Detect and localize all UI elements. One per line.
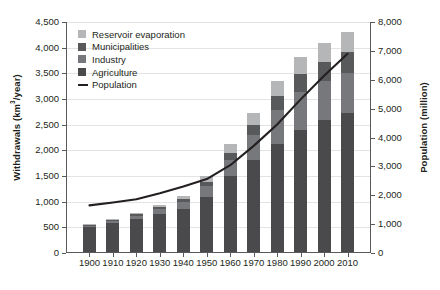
y-axis-right-tick [371, 51, 375, 52]
legend-line-marker-icon [78, 84, 88, 86]
water-withdrawals-chart: Withdrawals (km3/year) Population (milli… [0, 0, 440, 290]
y-axis-right-tick-label: 8,000 [378, 17, 402, 27]
y-axis-left-title-tail: /year) [11, 74, 22, 100]
x-axis-tick-label: 2010 [328, 258, 368, 268]
chart-legend: Reservoir evaporationMunicipalitiesIndus… [78, 28, 185, 91]
y-axis-left-tick-label: 3,000 [35, 94, 59, 104]
y-axis-left-tick-label: 2,500 [35, 120, 59, 130]
y-axis-right-tick-label: 1,000 [378, 219, 402, 229]
y-axis-right-tick [371, 195, 375, 196]
y-axis-right-tick [371, 166, 375, 167]
legend-item: Reservoir evaporation [78, 28, 185, 41]
y-axis-right-tick-label: 5,000 [378, 104, 402, 114]
y-axis-right-tick-label: 2,000 [378, 190, 402, 200]
y-axis-left-title-main: Withdrawals (km [11, 104, 22, 181]
y-axis-right-tick [371, 224, 375, 225]
y-axis-right-tick [371, 109, 375, 110]
y-axis-right-tick [371, 22, 375, 23]
y-axis-right-tick [371, 253, 375, 254]
y-axis-left-title-superscript: 3 [9, 100, 16, 104]
legend-swatch-icon [78, 55, 86, 63]
y-axis-left-tick-label: 1,500 [35, 171, 59, 181]
y-axis-left-tick-label: 0 [54, 248, 59, 258]
legend-swatch-icon [78, 43, 86, 51]
legend-swatch-icon [78, 68, 86, 76]
y-axis-right-tick-label: 0 [378, 248, 383, 258]
legend-item-label: Municipalities [92, 41, 149, 52]
legend-item-label: Reservoir evaporation [92, 29, 185, 40]
legend-item-label: Industry [92, 54, 126, 65]
y-axis-right-tick-label: 7,000 [378, 46, 402, 56]
y-axis-left-tick-label: 2,000 [35, 145, 59, 155]
y-axis-left-tick-label: 1,000 [35, 197, 59, 207]
y-axis-right-tick-label: 6,000 [378, 75, 402, 85]
y-axis-right-tick-label: 4,000 [378, 133, 402, 143]
legend-item: Population [78, 78, 185, 91]
legend-item-label: Population [92, 79, 137, 90]
y-axis-left-tick [62, 253, 66, 254]
y-axis-right-title: Population (million) [418, 68, 429, 188]
legend-swatch-icon [78, 30, 86, 38]
legend-item: Industry [78, 53, 185, 66]
y-axis-left-tick-label: 3,500 [35, 68, 59, 78]
legend-item-label: Agriculture [92, 67, 137, 78]
y-axis-left-title: Withdrawals (km3/year) [11, 68, 22, 188]
y-axis-left-tick-label: 500 [43, 222, 59, 232]
y-axis-right-tick-label: 3,000 [378, 161, 402, 171]
y-axis-left-tick-label: 4,500 [35, 17, 59, 27]
legend-item: Municipalities [78, 41, 185, 54]
y-axis-right-tick [371, 138, 375, 139]
y-axis-right-tick [371, 80, 375, 81]
y-axis-left-tick-label: 4,000 [35, 43, 59, 53]
legend-item: Agriculture [78, 66, 185, 79]
